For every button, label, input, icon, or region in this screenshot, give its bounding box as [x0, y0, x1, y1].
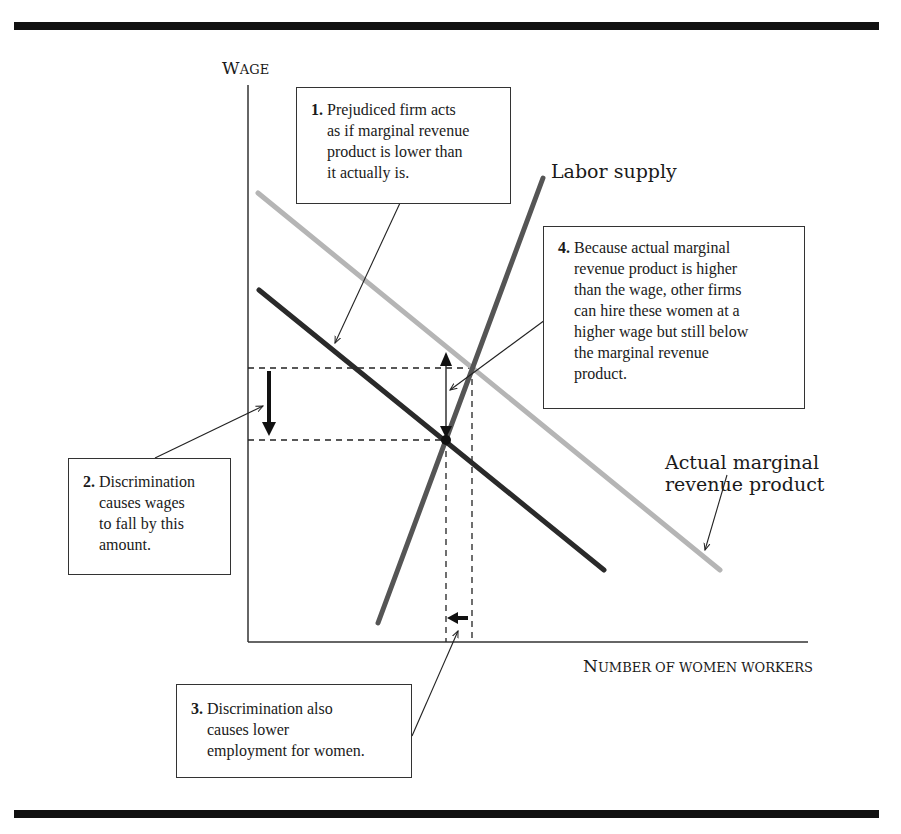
callout-3-line-3: employment for women.: [191, 740, 401, 761]
callout-3-text-0: Discrimination also: [207, 700, 333, 717]
callout-3-line-2: causes lower: [191, 719, 401, 740]
callout-4-line-1: 4. Because actual marginal: [558, 237, 794, 258]
callout-2-line-1: 2. Discrimination: [83, 471, 220, 492]
callout-1-text-0: Prejudiced firm acts: [327, 101, 456, 118]
callout-2-number: 2.: [83, 473, 95, 490]
callout-3-line-1: 3. Discrimination also: [191, 698, 401, 719]
callout-box-2: 2. Discrimination causes wages to fall b…: [68, 458, 231, 575]
wage-drop-arrow-icon: [262, 371, 276, 436]
callout-2-line-4: amount.: [83, 534, 220, 555]
x-axis-label: NUMBER OF WOMEN WORKERS: [583, 656, 813, 676]
callout-3-number: 3.: [191, 700, 203, 717]
callout-1-line-4: it actually is.: [311, 162, 500, 183]
callout-4-text-0: Because actual marginal: [574, 239, 730, 256]
callout-2-line-2: causes wages: [83, 492, 220, 513]
employment-drop-arrow-icon: [447, 612, 468, 624]
callout-2-line-3: to fall by this: [83, 513, 220, 534]
labor-supply-label: Labor supply: [551, 160, 677, 182]
callout-2-text-0: Discrimination: [99, 473, 195, 490]
callout-4-line-4: can hire these women at a: [558, 300, 794, 321]
actual-mrp-label: Actual marginal revenue product: [665, 451, 824, 495]
callout-1-line-3: product is lower than: [311, 141, 500, 162]
callout-4-line-7: product.: [558, 363, 794, 384]
callout-box-1: 1. Prejudiced firm acts as if marginal r…: [296, 87, 511, 204]
callout-1-line-1: 1. Prejudiced firm acts: [311, 99, 500, 120]
callout-1-number: 1.: [311, 101, 323, 118]
labor-supply-curve: [378, 178, 543, 623]
callout-box-4: 4. Because actual marginal revenue produ…: [543, 226, 805, 409]
y-axis-label-initial: W: [222, 58, 240, 78]
actual-mrp-label-line2: revenue product: [665, 473, 824, 495]
callout-box-3: 3. Discrimination also causes lower empl…: [176, 684, 412, 778]
y-axis-label-rest: AGE: [240, 62, 270, 77]
x-axis-label-rest: UMBER OF WOMEN WORKERS: [598, 660, 813, 675]
callout-1-line-2: as if marginal revenue: [311, 120, 500, 141]
callout-4-line-3: than the wage, other firms: [558, 279, 794, 300]
callout-4-number: 4.: [558, 239, 570, 256]
callout-4-line-5: higher wage but still below: [558, 321, 794, 342]
x-axis-label-initial: N: [583, 656, 598, 676]
dashed-guides: [248, 368, 472, 642]
y-axis-label: WAGE: [222, 58, 270, 78]
callout-4-line-6: the marginal revenue: [558, 342, 794, 363]
actual-mrp-label-line1: Actual marginal: [665, 451, 824, 473]
callout-4-line-2: revenue product is higher: [558, 258, 794, 279]
